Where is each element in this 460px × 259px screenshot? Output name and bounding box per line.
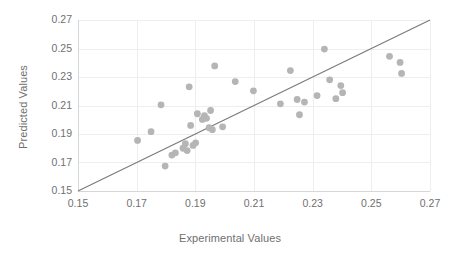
data-point <box>184 147 191 154</box>
x-tick-label: 0.25 <box>351 197 391 209</box>
data-point <box>398 70 405 77</box>
data-point <box>301 99 308 106</box>
data-point <box>296 111 303 118</box>
plot-svg <box>78 20 430 191</box>
y-tick-label: 0.19 <box>38 127 72 139</box>
data-point <box>337 82 344 89</box>
data-point <box>134 137 141 144</box>
x-tick-label: 0.21 <box>234 197 274 209</box>
data-point <box>162 163 169 170</box>
y-tick-label: 0.15 <box>38 184 72 196</box>
data-point <box>203 115 210 122</box>
data-point <box>187 122 194 129</box>
data-point <box>321 46 328 53</box>
data-points <box>134 46 405 170</box>
data-point <box>194 110 201 117</box>
data-point <box>287 67 294 74</box>
data-point <box>207 107 214 114</box>
data-point <box>397 59 404 66</box>
data-point <box>294 96 301 103</box>
y-tick-label: 0.27 <box>38 13 72 25</box>
x-axis-title: Experimental Values <box>0 232 460 244</box>
data-point <box>192 139 199 146</box>
x-tick-label: 0.19 <box>175 197 215 209</box>
data-point <box>250 87 257 94</box>
plot-area <box>78 20 430 191</box>
data-point <box>332 95 339 102</box>
data-point <box>219 123 226 130</box>
y-tick-label: 0.21 <box>38 99 72 111</box>
scatter-chart: 0.150.170.190.210.230.250.27 0.150.170.1… <box>0 0 460 259</box>
data-point <box>186 83 193 90</box>
y-tick-label: 0.23 <box>38 70 72 82</box>
data-point <box>326 76 333 83</box>
data-point <box>314 92 321 99</box>
data-point <box>211 62 218 69</box>
x-tick-label: 0.23 <box>293 197 333 209</box>
data-point <box>172 149 179 156</box>
data-point <box>158 101 165 108</box>
data-point <box>148 128 155 135</box>
data-point <box>232 78 239 85</box>
x-tick-label: 0.27 <box>410 197 450 209</box>
y-axis-title: Predicted Values <box>17 37 29 177</box>
data-point <box>339 89 346 96</box>
y-tick-label: 0.25 <box>38 42 72 54</box>
data-point <box>182 140 189 147</box>
y-tick-label: 0.17 <box>38 156 72 168</box>
data-point <box>209 126 216 133</box>
x-tick-label: 0.17 <box>117 197 157 209</box>
x-tick-label: 0.15 <box>58 197 98 209</box>
data-point <box>386 53 393 60</box>
data-point <box>277 100 284 107</box>
